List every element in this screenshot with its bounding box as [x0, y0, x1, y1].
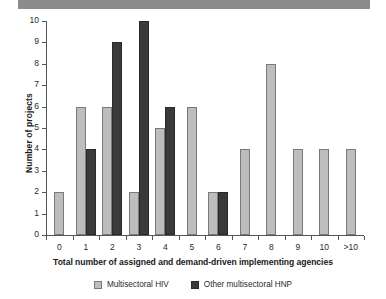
x-axis-title: Total number of assigned and demand-driv… [0, 257, 386, 267]
x-axis-tick-label: 7 [242, 242, 247, 252]
legend-item-other-multisectoral-hnp: Other multisectoral HNP [191, 280, 292, 289]
bar-multisectoral-hiv-gt10 [346, 149, 356, 235]
y-axis-tick-label: 0 [34, 229, 39, 239]
x-axis-tick-mark [285, 236, 286, 240]
x-axis-tick-mark [46, 236, 47, 240]
x-axis-tick-mark [311, 236, 312, 240]
x-axis-tick-label: >10 [344, 242, 358, 252]
legend-item-multisectoral-hiv: Multisectoral HIV [94, 280, 169, 289]
y-axis-tick-label: 8 [34, 58, 39, 68]
x-axis-tick-label: 8 [269, 242, 274, 252]
chart-legend: Multisectoral HIVOther multisectoral HNP [0, 280, 386, 289]
x-axis-tick-mark [258, 236, 259, 240]
x-axis-tick-label: 3 [136, 242, 141, 252]
y-axis-tick-label: 2 [34, 186, 39, 196]
legend-swatch-icon [94, 281, 102, 289]
bar-other-multisectoral-hnp-6 [218, 192, 228, 235]
x-axis-tick-mark [364, 236, 365, 240]
bar-multisectoral-hiv-0 [54, 192, 64, 235]
y-axis-line [46, 21, 47, 236]
y-axis-tick-mark [42, 85, 46, 86]
x-axis-tick-label: 0 [57, 242, 62, 252]
bar-other-multisectoral-hnp-2 [112, 42, 122, 235]
y-axis-tick-label: 1 [34, 208, 39, 218]
x-axis-tick-label: 10 [320, 242, 329, 252]
plot-area: 012345678910 012345678910>10 [46, 21, 364, 236]
y-axis-tick-label: 7 [34, 79, 39, 89]
bar-multisectoral-hiv-1 [76, 107, 86, 235]
bar-multisectoral-hiv-9 [293, 149, 303, 235]
y-axis-tick-label: 10 [30, 15, 39, 25]
legend-swatch-icon [191, 281, 199, 289]
y-axis-tick-mark [42, 171, 46, 172]
bar-multisectoral-hiv-6 [208, 192, 218, 235]
y-axis-tick-label: 5 [34, 122, 39, 132]
x-axis-tick-mark [179, 236, 180, 240]
y-axis-tick-mark [42, 64, 46, 65]
legend-item-label: Multisectoral HIV [107, 280, 169, 289]
x-axis-tick-mark [205, 236, 206, 240]
y-axis-tick-label: 4 [34, 143, 39, 153]
y-axis-tick-label: 3 [34, 165, 39, 175]
bar-multisectoral-hiv-3 [129, 192, 139, 235]
y-axis-tick-mark [42, 214, 46, 215]
bar-multisectoral-hiv-5 [187, 107, 197, 235]
x-axis-tick-mark [126, 236, 127, 240]
x-axis-tick-mark [73, 236, 74, 240]
x-axis-tick-label: 9 [295, 242, 300, 252]
x-axis-tick-label: 4 [163, 242, 168, 252]
bar-other-multisectoral-hnp-3 [139, 21, 149, 235]
bar-other-multisectoral-hnp-4 [165, 107, 175, 235]
x-axis-tick-label: 1 [83, 242, 88, 252]
x-axis-tick-label: 6 [216, 242, 221, 252]
y-axis-tick-label: 6 [34, 101, 39, 111]
y-axis-tick-mark [42, 149, 46, 150]
bar-chart-figure: Number of projects 012345678910 01234567… [0, 0, 386, 299]
y-axis-tick-mark [42, 107, 46, 108]
y-axis-tick-mark [42, 42, 46, 43]
x-axis-tick-label: 2 [110, 242, 115, 252]
y-axis-tick-mark [42, 21, 46, 22]
x-axis-tick-mark [232, 236, 233, 240]
bar-multisectoral-hiv-8 [266, 64, 276, 235]
x-axis-tick-mark [99, 236, 100, 240]
y-axis-tick-label: 9 [34, 36, 39, 46]
bar-multisectoral-hiv-10 [319, 149, 329, 235]
bar-multisectoral-hiv-4 [155, 128, 165, 235]
legend-item-label: Other multisectoral HNP [204, 280, 292, 289]
x-axis-tick-mark [152, 236, 153, 240]
x-axis-tick-mark [338, 236, 339, 240]
bar-other-multisectoral-hnp-1 [86, 149, 96, 235]
y-axis-tick-mark [42, 192, 46, 193]
y-axis-title: Number of projects [24, 58, 34, 208]
bar-multisectoral-hiv-2 [102, 107, 112, 235]
y-axis-tick-mark [42, 128, 46, 129]
x-axis-tick-label: 5 [189, 242, 194, 252]
bar-multisectoral-hiv-7 [240, 149, 250, 235]
